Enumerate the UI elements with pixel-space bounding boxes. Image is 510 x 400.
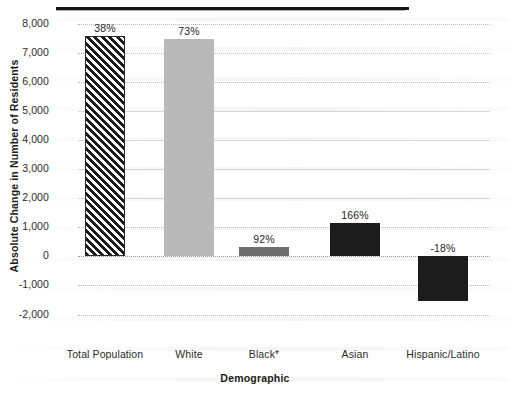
y-axis-tick-label: 3,000 bbox=[0, 162, 49, 174]
bar-total-population[interactable] bbox=[85, 36, 125, 257]
bar-hispanic-latino[interactable] bbox=[418, 256, 468, 300]
gridline bbox=[78, 227, 490, 228]
y-axis-tick-label: -1,000 bbox=[0, 278, 49, 290]
gridline bbox=[78, 198, 490, 199]
gridline bbox=[78, 140, 490, 141]
y-axis-tick-label: 2,000 bbox=[0, 191, 49, 203]
x-axis-title: Demographic bbox=[0, 372, 510, 384]
gridline bbox=[78, 53, 490, 54]
gridline bbox=[78, 315, 490, 316]
y-axis-tick-label: 1,000 bbox=[0, 220, 49, 232]
x-axis-tick-label: Hispanic/Latino bbox=[373, 348, 510, 360]
bar-chart: Absolute Change in Number of Residents 8… bbox=[0, 0, 510, 400]
y-axis-tick-label: 8,000 bbox=[0, 17, 49, 29]
bar-asian[interactable] bbox=[330, 223, 380, 256]
plot-area: 8,0007,0006,0005,0004,0003,0002,0001,000… bbox=[78, 24, 490, 336]
bar-value-label: 166% bbox=[320, 209, 390, 221]
gridline bbox=[78, 169, 490, 170]
gridline bbox=[78, 82, 490, 83]
bar-white[interactable] bbox=[164, 39, 214, 256]
bar-value-label: -18% bbox=[408, 242, 478, 254]
bar-black[interactable] bbox=[239, 247, 289, 257]
y-axis-tick-label: 6,000 bbox=[0, 75, 49, 87]
y-axis-tick-label: 0 bbox=[0, 249, 49, 261]
bar-value-label: 38% bbox=[70, 22, 140, 34]
bar-value-label: 92% bbox=[229, 233, 299, 245]
y-axis-tick-label: 7,000 bbox=[0, 46, 49, 58]
y-axis-tick-label: -2,000 bbox=[0, 308, 49, 320]
y-axis-tick-label: 4,000 bbox=[0, 133, 49, 145]
bar-value-label: 73% bbox=[154, 25, 224, 37]
gridline bbox=[78, 111, 490, 112]
y-axis-tick-label: 5,000 bbox=[0, 104, 49, 116]
